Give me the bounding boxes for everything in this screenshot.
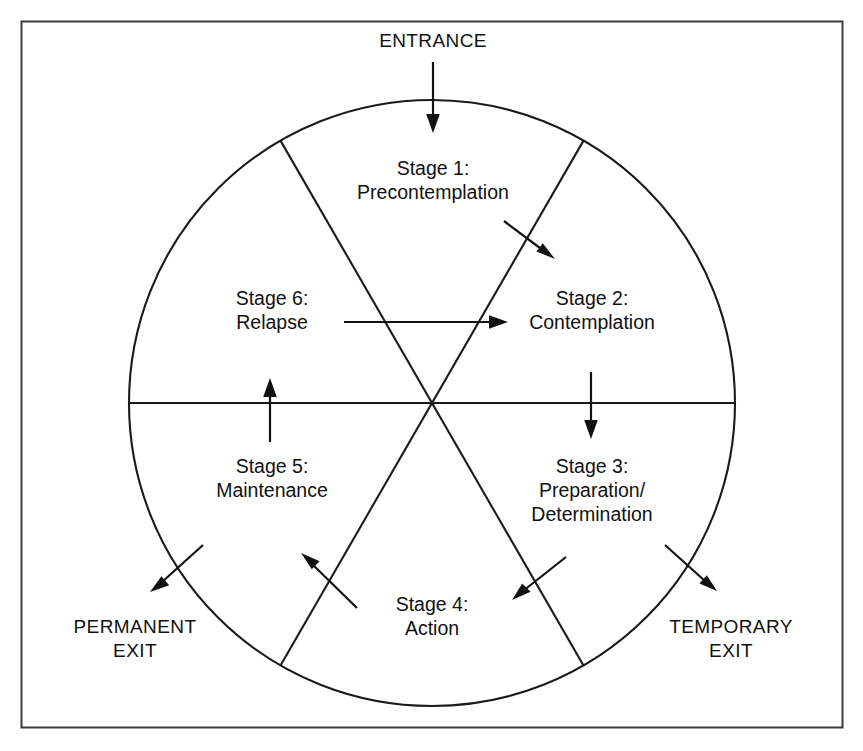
stage4-to-stage5-arrow xyxy=(301,553,357,608)
stage2-to-stage3-arrow-head xyxy=(584,420,598,439)
temporary-exit-arrow xyxy=(665,545,717,591)
stage2-to-stage3-arrow xyxy=(584,372,598,439)
temporary-exit-label-line1: TEMPORARY xyxy=(669,616,793,637)
stage-3-number: Stage 3: xyxy=(556,455,629,477)
stage-4-number: Stage 4: xyxy=(396,593,469,615)
stage5-to-stage6-arrow xyxy=(263,378,277,442)
stage-3-name: Preparation/ xyxy=(539,479,646,501)
stage-1-number: Stage 1: xyxy=(397,157,470,179)
stage4-to-stage5-arrow-head xyxy=(301,553,320,569)
stage-1-name: Precontemplation xyxy=(357,181,509,203)
entrance-arrow-head xyxy=(426,114,440,133)
stage-6-name: Relapse xyxy=(236,311,308,333)
permanent-exit-arrow xyxy=(150,545,203,592)
stage-6-number: Stage 6: xyxy=(236,287,309,309)
stage1-to-stage2-arrow xyxy=(504,221,555,259)
stage-3-name-line2: Determination xyxy=(531,503,652,525)
entrance-label: ENTRANCE xyxy=(379,30,487,51)
stage5-to-stage6-arrow-head xyxy=(263,378,277,397)
stage-5-name: Maintenance xyxy=(216,479,328,501)
stage-2-number: Stage 2: xyxy=(556,287,629,309)
stage1-to-stage2-arrow-head xyxy=(537,243,556,259)
stages-of-change-figure: ENTRANCE Stage 1: Precontemplation Stage… xyxy=(0,0,863,751)
entrance-arrow xyxy=(426,62,440,133)
stage6-to-stage2-arrow-head xyxy=(489,315,508,329)
stage-4-name: Action xyxy=(405,617,459,639)
stage6-to-stage2-arrow xyxy=(344,315,508,329)
permanent-exit-label-line1: PERMANENT xyxy=(74,616,197,637)
stage3-to-stage4-arrow xyxy=(512,557,566,600)
stage-5-number: Stage 5: xyxy=(236,455,309,477)
permanent-exit-label-line2: EXIT xyxy=(113,640,157,661)
temporary-exit-label-line2: EXIT xyxy=(709,640,753,661)
stage-2-name: Contemplation xyxy=(529,311,655,333)
stages-of-change-wheel-svg: ENTRANCE Stage 1: Precontemplation Stage… xyxy=(0,0,863,751)
